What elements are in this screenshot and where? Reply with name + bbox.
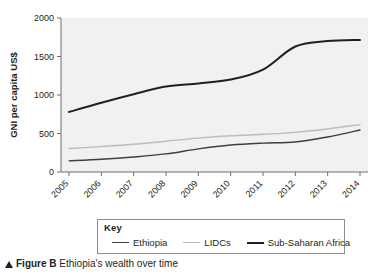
up-triangle-icon <box>5 261 13 268</box>
y-axis-title: GNI per capita US$ <box>8 52 19 138</box>
y-axis-tick-label: 2000 <box>34 13 54 23</box>
x-axis-tick-label: 2007 <box>114 178 135 199</box>
x-axis-tick-label: 2011 <box>244 178 265 199</box>
y-axis-ticks <box>57 18 61 172</box>
x-axis-tick-labels: 2005200620072008200920102011201220132014 <box>49 178 361 199</box>
x-axis-tick-label: 2012 <box>276 178 297 199</box>
y-axis-tick-labels: 0500100015002000 <box>34 13 54 177</box>
x-axis-tick-label: 2005 <box>49 178 70 199</box>
x-axis-tick-label: 2010 <box>211 178 232 199</box>
legend-item-label: LIDCs <box>204 237 230 248</box>
x-axis-tick-label: 2006 <box>82 178 103 199</box>
caption-figure-label: Figure B <box>16 258 57 269</box>
x-axis-tick-label: 2013 <box>308 178 329 199</box>
x-axis-tick-label: 2009 <box>179 178 200 199</box>
legend-swatch-line <box>247 242 264 244</box>
chart-area: 0500100015002000 20052006200720082009201… <box>0 0 387 214</box>
legend-title: Key <box>104 222 122 233</box>
x-axis-tick-label: 2014 <box>340 178 361 199</box>
legend-item-ethiopia: Ethiopia <box>112 237 167 248</box>
x-axis-ticks <box>69 172 360 176</box>
caption-text: Ethiopia's wealth over time <box>57 258 178 269</box>
y-axis-tick-label: 0 <box>49 167 54 177</box>
figure-caption: Figure B Ethiopia's wealth over time <box>5 258 385 269</box>
legend-item-lidcs: LIDCs <box>183 237 230 248</box>
legend: Key EthiopiaLIDCsSub-Saharan Africa <box>97 219 345 254</box>
figure-container: 0500100015002000 20052006200720082009201… <box>0 0 387 278</box>
legend-swatch-line <box>183 242 200 243</box>
line-chart: 0500100015002000 20052006200720082009201… <box>0 0 387 214</box>
legend-item-sub-saharan-africa: Sub-Saharan Africa <box>247 237 350 248</box>
legend-item-label: Ethiopia <box>133 237 167 248</box>
y-axis-tick-label: 1500 <box>34 52 54 62</box>
x-axis-tick-label: 2008 <box>146 178 167 199</box>
y-axis-tick-label: 500 <box>39 129 54 139</box>
legend-swatch-line <box>112 242 129 243</box>
legend-items: EthiopiaLIDCsSub-Saharan Africa <box>104 237 342 248</box>
legend-item-label: Sub-Saharan Africa <box>268 237 350 248</box>
y-axis-tick-label: 1000 <box>34 90 54 100</box>
